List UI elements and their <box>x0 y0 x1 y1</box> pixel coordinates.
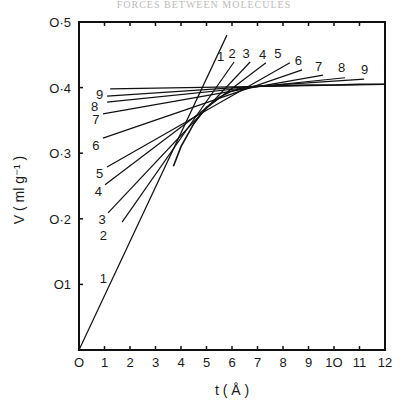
page-header: FORCES BETWEEN MOLECULES <box>117 0 292 10</box>
y-tick-label: O·3 <box>49 146 71 161</box>
x-tick-label: 6 <box>228 355 235 370</box>
line-label-right: 1 <box>217 49 224 64</box>
line-label-right: 5 <box>274 46 281 61</box>
x-tick-label: 1 <box>101 355 108 370</box>
tangent-line-6 <box>103 70 302 138</box>
line-label-left: 4 <box>95 184 102 199</box>
line-label-left: 7 <box>92 112 99 127</box>
x-tick-label: 2 <box>126 355 133 370</box>
y-tick-label: O·4 <box>49 81 71 96</box>
line-label-left: 3 <box>99 212 106 227</box>
line-label-right: 4 <box>259 47 266 62</box>
x-tick-label: 1O <box>325 355 342 370</box>
chart: FORCES BETWEEN MOLECULES O1234567891O111… <box>0 0 408 408</box>
line-label-left: 9 <box>96 87 103 102</box>
line-label-left: 5 <box>96 166 103 181</box>
y-tick-label: O1 <box>54 277 71 292</box>
line-label-right: 7 <box>315 59 322 74</box>
line-label-left: 2 <box>100 228 107 243</box>
x-tick-label: O <box>74 355 84 370</box>
line-label-right: 9 <box>361 62 368 77</box>
y-tick-label: O·5 <box>49 15 71 30</box>
line-label-right: 8 <box>338 60 345 75</box>
x-tick-label: 11 <box>353 355 367 370</box>
x-tick-label: 12 <box>378 355 392 370</box>
x-tick-label: 9 <box>305 355 312 370</box>
tangent-line-3 <box>108 62 250 213</box>
x-axis-title: t ( Å ) <box>215 382 249 398</box>
x-tick-label: 5 <box>203 355 210 370</box>
line-label-right: 2 <box>228 46 235 61</box>
x-tick-label: 8 <box>279 355 286 370</box>
line-label-right: 6 <box>295 53 302 68</box>
y-tick-label: O·2 <box>49 212 71 227</box>
line-label-left: 6 <box>92 138 99 153</box>
line-label-left: 1 <box>100 271 107 286</box>
y-axis-title: V ( ml g⁻¹ ) <box>11 156 27 224</box>
x-tick-label: 3 <box>152 355 159 370</box>
x-tick-label: 4 <box>177 355 184 370</box>
tangent-line-4 <box>105 63 266 185</box>
tangent-lines <box>79 35 385 350</box>
tangent-line-8 <box>107 78 345 102</box>
curves <box>173 84 385 166</box>
tangent-line-5 <box>107 63 290 167</box>
x-tick-label: 7 <box>254 355 261 370</box>
tangent-line-2 <box>122 62 234 222</box>
line-label-right: 3 <box>242 46 249 61</box>
series-isotherm-envelope <box>173 84 385 166</box>
